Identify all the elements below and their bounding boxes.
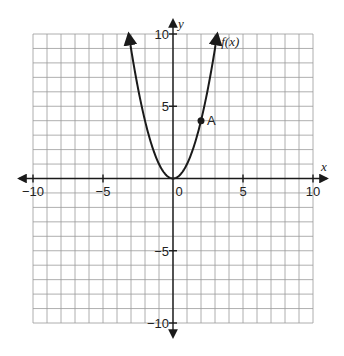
y-tick-label: −5: [154, 244, 169, 259]
y-axis-label: y: [176, 16, 184, 31]
y-tick-label: −10: [147, 316, 169, 331]
y-tick-label: 10: [155, 27, 169, 42]
x-tick-label: 5: [239, 184, 246, 199]
y-tick-label: 5: [162, 99, 169, 114]
x-axis-label: x: [320, 159, 327, 174]
x-tick-label: 10: [306, 184, 320, 199]
point-a-label: A: [207, 113, 216, 128]
x-tick-label: 0: [175, 184, 182, 199]
function-graph: −10−50510105−5−10 x y f(x) A: [0, 0, 344, 356]
point-a-marker: [198, 117, 205, 124]
x-tick-label: −5: [96, 184, 111, 199]
x-tick-label: −10: [22, 184, 44, 199]
function-label: f(x): [221, 34, 239, 49]
